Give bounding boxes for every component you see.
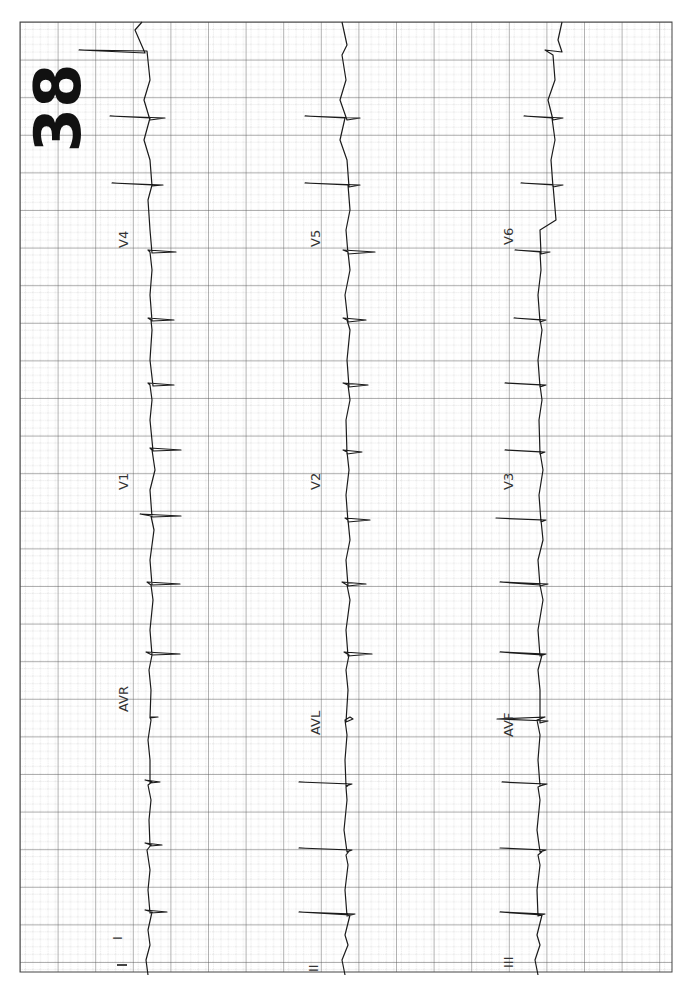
lead-label-I: I <box>110 936 125 940</box>
svg-text:V6: V6 <box>501 228 516 245</box>
lead-label-V6: V6 <box>501 228 516 245</box>
lead-label-V1: V1 <box>116 473 131 490</box>
svg-text:V2: V2 <box>308 473 323 490</box>
ecg-tracing: 38 I AVR V1 V4 II AVL V2 V5 III AVF V3 V… <box>0 0 688 983</box>
svg-text:AVR: AVR <box>116 686 131 712</box>
svg-text:AVF: AVF <box>501 713 516 737</box>
lead-label-V2: V2 <box>308 473 323 490</box>
lead-label-V4: V4 <box>116 231 131 248</box>
lead-label-AVF: AVF <box>501 713 516 737</box>
svg-text:II: II <box>306 964 321 972</box>
calibration-mark <box>117 964 127 966</box>
svg-text:V4: V4 <box>116 231 131 248</box>
lead-label-II: II <box>306 964 321 972</box>
svg-text:V5: V5 <box>308 230 323 247</box>
page-number: 38 <box>21 63 95 152</box>
svg-text:V3: V3 <box>501 473 516 490</box>
lead-label-V3: V3 <box>501 473 516 490</box>
lead-label-V5: V5 <box>308 230 323 247</box>
lead-label-AVR: AVR <box>116 686 131 712</box>
lead-label-AVL: AVL <box>308 710 323 735</box>
svg-text:V1: V1 <box>116 473 131 490</box>
svg-text:AVL: AVL <box>308 710 323 735</box>
svg-text:III: III <box>501 956 516 968</box>
svg-text:I: I <box>110 936 125 940</box>
lead-label-III: III <box>501 956 516 968</box>
svg-text:38: 38 <box>21 63 95 152</box>
